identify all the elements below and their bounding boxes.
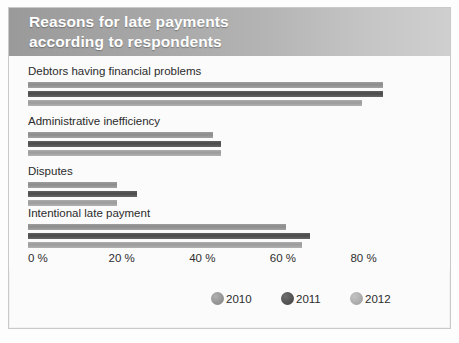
legend-label: 2010: [226, 293, 252, 305]
chart-figure: Reasons for late payments according to r…: [0, 0, 459, 343]
bar-2010-4: [28, 224, 286, 230]
bar-2010-3: [28, 182, 117, 188]
legend-item-2012[interactable]: 2012: [350, 292, 391, 305]
bar-2011-1: [28, 91, 383, 97]
category-label: Administrative inefficiency: [28, 114, 160, 128]
x-tick-label-80: 80 %: [350, 252, 376, 264]
legend-swatch-circle-icon: [211, 292, 224, 305]
legend-item-2010[interactable]: 2010: [211, 292, 252, 305]
bar-2011-4: [28, 233, 310, 239]
category-label: Debtors having financial problems: [28, 64, 201, 78]
bar-2012-4: [28, 242, 302, 248]
bar-2010-2: [28, 132, 213, 138]
title-banner: Reasons for late payments according to r…: [9, 8, 450, 56]
bar-2011-3: [28, 191, 137, 197]
bar-2010-1: [28, 82, 383, 88]
plot-area: Debtors having financial problemsAdminis…: [9, 56, 450, 271]
bar-2011-2: [28, 141, 221, 147]
bar-2012-2: [28, 150, 221, 156]
legend-item-2011[interactable]: 2011: [281, 292, 321, 305]
x-tick-label-60: 60 %: [270, 252, 296, 264]
title-line-2: according to respondents: [29, 32, 359, 52]
legend-swatch-circle-icon: [350, 292, 363, 305]
x-axis: 0 %20 %40 %60 %80 %: [9, 252, 450, 274]
legend-label: 2011: [296, 293, 321, 305]
legend-label: 2012: [365, 293, 391, 305]
x-tick-label-0: 0 %: [28, 252, 48, 264]
x-tick-label-40: 40 %: [189, 252, 215, 264]
category-label: Disputes: [28, 164, 73, 178]
chart-legend: 201020112012: [9, 292, 450, 314]
x-tick-label-20: 20 %: [109, 252, 135, 264]
title-line-1: Reasons for late payments: [29, 12, 359, 32]
category-label: Intentional late payment: [28, 206, 150, 220]
bar-2012-1: [28, 100, 362, 106]
page-title: Reasons for late payments according to r…: [29, 12, 359, 52]
legend-swatch-circle-icon: [281, 292, 294, 305]
